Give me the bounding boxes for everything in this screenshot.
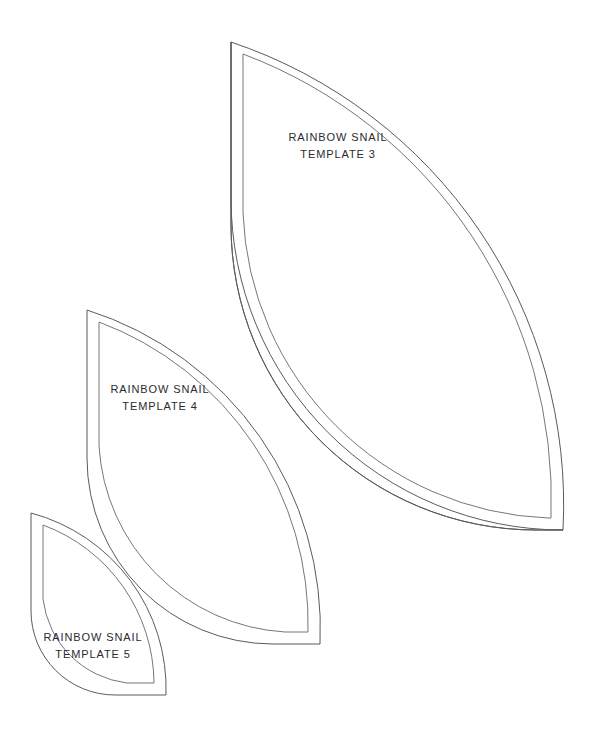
template-5-label-line1: RAINBOW SNAIL <box>43 631 142 643</box>
template-3-outer-outline <box>231 42 564 530</box>
template-3-seam-line <box>243 54 551 518</box>
pattern-sheet: RAINBOW SNAIL TEMPLATE 3 RAINBOW SNAIL T… <box>0 0 601 729</box>
template-3-label-line2: TEMPLATE 3 <box>228 146 448 163</box>
template-4-label-line1: RAINBOW SNAIL <box>110 383 209 395</box>
template-5-label: RAINBOW SNAIL TEMPLATE 5 <box>0 629 203 663</box>
template-3-label-line1: RAINBOW SNAIL <box>288 131 387 143</box>
template-5-shape[interactable] <box>31 513 166 695</box>
template-5-label-line2: TEMPLATE 5 <box>0 646 203 663</box>
template-shapes-canvas <box>0 0 601 729</box>
template-3-outer-cut-line <box>231 42 563 530</box>
template-3-shape[interactable] <box>231 42 564 530</box>
template-4-label-line2: TEMPLATE 4 <box>50 398 270 415</box>
template-4-seam-line <box>99 322 308 632</box>
template-3-label: RAINBOW SNAIL TEMPLATE 3 <box>228 129 448 163</box>
template-4-label: RAINBOW SNAIL TEMPLATE 4 <box>50 381 270 415</box>
template-5-outer-outline <box>31 513 166 695</box>
